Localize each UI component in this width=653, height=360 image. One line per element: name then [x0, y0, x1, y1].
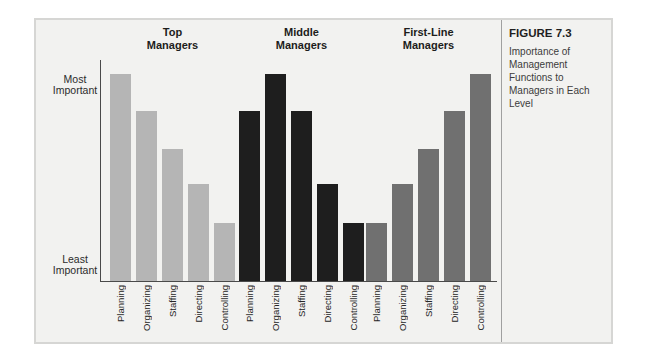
bar-middle-managers-planning: [239, 111, 260, 281]
x-axis-label-text: Planning: [115, 285, 126, 322]
figure-panel: Most Important Least Important Top Manag…: [34, 18, 613, 344]
bar-top-managers-staffing: [162, 149, 183, 281]
bar-middle-managers-controlling: [343, 223, 364, 281]
x-axis-label-text: Controlling: [475, 285, 486, 330]
x-axis-label-text: Controlling: [219, 285, 230, 330]
bar-top-managers-planning: [110, 74, 131, 281]
bar-chart: Most Important Least Important Top Manag…: [36, 20, 501, 342]
x-axis-label-text: Planning: [244, 285, 255, 322]
x-axis-label-planning: Planning: [239, 285, 260, 343]
bars-first-line-managers: [366, 71, 491, 281]
bar-first-line-managers-directing: [444, 111, 465, 281]
bar-top-managers-organizing: [136, 111, 157, 281]
bar-middle-managers-staffing: [291, 111, 312, 281]
x-axis-label-planning: Planning: [110, 285, 131, 343]
bar-first-line-managers-controlling: [470, 74, 491, 281]
group-header-top-managers: Top Managers: [110, 26, 235, 52]
x-axis-label-directing: Directing: [188, 285, 209, 343]
x-axis-label-directing: Directing: [317, 285, 338, 343]
x-axis-label-text: Controlling: [348, 285, 359, 330]
x-axis-label-text: Staffing: [423, 285, 434, 317]
x-axis-label-text: Staffing: [167, 285, 178, 317]
figure-number-label: FIGURE 7.3: [509, 27, 609, 39]
x-axis-labels-top-managers: PlanningOrganizingStaffingDirectingContr…: [110, 285, 235, 343]
bars-top-managers: [110, 71, 235, 281]
bars-middle-managers: [239, 71, 364, 281]
bar-first-line-managers-organizing: [392, 184, 413, 281]
x-axis-label-text: Organizing: [270, 285, 281, 331]
x-axis-label-text: Organizing: [141, 285, 152, 331]
bar-group-top-managers: Top ManagersPlanningOrganizingStaffingDi…: [110, 20, 235, 342]
bar-middle-managers-organizing: [265, 74, 286, 281]
x-axis-label-controlling: Controlling: [343, 285, 364, 343]
group-header-middle-managers: Middle Managers: [239, 26, 364, 52]
x-axis-label-text: Directing: [322, 285, 333, 323]
x-axis-label-organizing: Organizing: [265, 285, 286, 343]
x-axis-label-text: Directing: [449, 285, 460, 323]
bar-top-managers-controlling: [214, 223, 235, 281]
bar-first-line-managers-staffing: [418, 149, 439, 281]
x-axis-label-organizing: Organizing: [136, 285, 157, 343]
figure-caption-sidebar: FIGURE 7.3 Importance of Management Func…: [501, 20, 611, 342]
bar-middle-managers-directing: [317, 184, 338, 281]
bar-first-line-managers-planning: [366, 223, 387, 281]
x-axis-label-organizing: Organizing: [392, 285, 413, 343]
x-axis-label-text: Planning: [371, 285, 382, 322]
bar-groups-container: Top ManagersPlanningOrganizingStaffingDi…: [36, 20, 501, 342]
x-axis-labels-first-line-managers: PlanningOrganizingStaffingDirectingContr…: [366, 285, 491, 343]
x-axis-label-staffing: Staffing: [418, 285, 439, 343]
bar-top-managers-directing: [188, 184, 209, 281]
x-axis-label-planning: Planning: [366, 285, 387, 343]
x-axis-label-text: Directing: [193, 285, 204, 323]
x-axis-label-staffing: Staffing: [291, 285, 312, 343]
x-axis-label-text: Organizing: [397, 285, 408, 331]
x-axis-label-directing: Directing: [444, 285, 465, 343]
x-axis-label-controlling: Controlling: [470, 285, 491, 343]
x-axis-label-controlling: Controlling: [214, 285, 235, 343]
x-axis-label-staffing: Staffing: [162, 285, 183, 343]
bar-group-middle-managers: Middle ManagersPlanningOrganizingStaffin…: [239, 20, 364, 342]
group-header-first-line-managers: First-Line Managers: [366, 26, 491, 52]
bar-group-first-line-managers: First-Line ManagersPlanningOrganizingSta…: [366, 20, 491, 342]
x-axis-label-text: Staffing: [296, 285, 307, 317]
x-axis-labels-middle-managers: PlanningOrganizingStaffingDirectingContr…: [239, 285, 364, 343]
figure-caption-text: Importance of Management Functions to Ma…: [509, 45, 609, 110]
